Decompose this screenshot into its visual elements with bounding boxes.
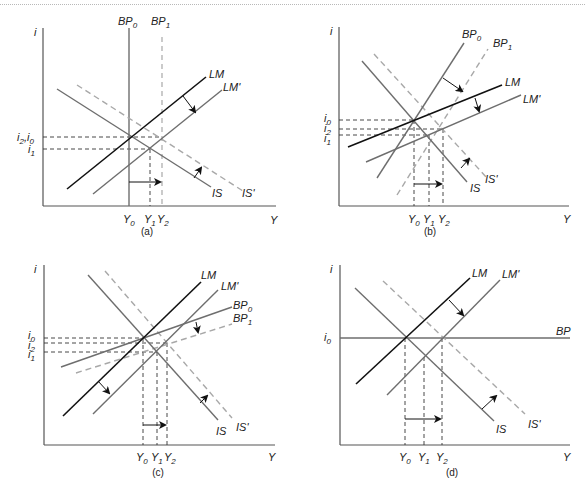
tick-y0: Y0 — [408, 213, 420, 228]
tick-y2: Y2 — [157, 213, 169, 228]
axis-label-y: Y — [563, 213, 571, 225]
axis-label-y: Y — [268, 451, 276, 463]
label-lm-prime: LM' — [223, 81, 241, 93]
arrow-lm-shift — [475, 98, 479, 111]
curve-lm — [67, 77, 206, 189]
tick-y2: Y2 — [438, 213, 450, 228]
axis-label-i: i — [34, 263, 37, 275]
arrow-is-shift — [482, 396, 496, 409]
label-lm-prime: LM' — [502, 268, 520, 280]
curve-bp0 — [61, 307, 232, 367]
curve-is-shifted — [77, 85, 243, 191]
label-bp1: BP1 — [151, 15, 170, 30]
curve-is-shifted — [374, 54, 487, 178]
axis-label-i: i — [330, 25, 333, 37]
panel-a: i Y BP0 BP1 LM LM' IS IS' i2,i0 i1 Y0 Y1… — [17, 15, 278, 237]
tick-y0: Y0 — [123, 213, 135, 228]
label-is: IS — [212, 187, 223, 199]
guide-lines — [43, 137, 162, 206]
arrow-is-shift — [200, 396, 207, 403]
arrow-lm-shift — [183, 96, 195, 112]
tick-y0: Y0 — [136, 451, 148, 466]
panel-c: i Y LM LM' BP0 BP1 IS IS' i0 i2 i1 Y0 Y1 — [28, 263, 276, 478]
label-bp: BP — [556, 325, 571, 337]
axis-label-i: i — [330, 263, 333, 275]
caption-c: (c) — [152, 467, 164, 478]
label-lm-prime: LM' — [523, 93, 541, 105]
label-is-prime: IS' — [236, 421, 249, 433]
tick-y0: Y0 — [399, 451, 411, 466]
label-is-prime: IS' — [528, 418, 541, 430]
caption-b: (b) — [424, 226, 436, 237]
label-is-prime: IS' — [242, 187, 255, 199]
label-bp0: BP0 — [462, 28, 482, 43]
guide-lines — [339, 120, 443, 206]
label-lm-prime: LM' — [221, 280, 239, 292]
axis-label-y: Y — [563, 451, 571, 463]
caption-d: (d) — [446, 467, 458, 478]
panel-b: i Y BP0 BP1 LM LM' IS IS' i0 i2 i1 Y0 Y1 — [324, 25, 571, 237]
curve-is — [57, 89, 211, 187]
label-lm: LM — [209, 68, 225, 80]
arrow-bp-shift — [196, 322, 198, 332]
tick-i2-i0: i2,i0 — [17, 131, 34, 146]
curve-is — [88, 275, 218, 420]
label-bp0: BP0 — [118, 15, 138, 30]
tick-i0: i0 — [324, 331, 331, 346]
label-is-prime: IS' — [485, 173, 498, 185]
label-bp1: BP1 — [233, 312, 252, 327]
axis-label-i: i — [34, 26, 37, 38]
label-is: IS — [216, 425, 227, 437]
tick-y2: Y2 — [164, 451, 176, 466]
label-lm: LM — [505, 76, 521, 88]
curve-lm-shifted — [93, 90, 222, 194]
label-lm: LM — [472, 267, 488, 279]
tick-y2: Y2 — [436, 451, 448, 466]
curve-lm — [348, 85, 502, 147]
curve-lm-shifted — [93, 290, 218, 414]
arrow-is-shift — [461, 159, 469, 168]
arrow-lm-shift — [449, 300, 463, 315]
guide-lines — [44, 338, 167, 445]
label-lm: LM — [201, 269, 217, 281]
curve-is — [362, 61, 467, 182]
tick-y1: Y1 — [151, 451, 163, 466]
caption-a: (a) — [141, 226, 153, 237]
arrow-is-shift — [194, 168, 201, 178]
arrow-bp-shift — [443, 78, 462, 91]
label-is: IS — [470, 182, 481, 194]
axis-label-y: Y — [270, 214, 278, 226]
is-lm-bp-diagram: i Y BP0 BP1 LM LM' IS IS' i2,i0 i1 Y0 Y1… — [0, 0, 585, 492]
curve-lm-shifted — [366, 95, 521, 162]
panel-d: i Y LM LM' BP IS IS' i0 Y0 Y1 Y2 (d) — [324, 263, 571, 478]
label-bp1: BP1 — [493, 37, 512, 52]
tick-y1: Y1 — [418, 451, 430, 466]
curve-is-shifted — [383, 281, 525, 414]
arrow-lm-shift — [98, 381, 109, 393]
label-is: IS — [496, 423, 507, 435]
